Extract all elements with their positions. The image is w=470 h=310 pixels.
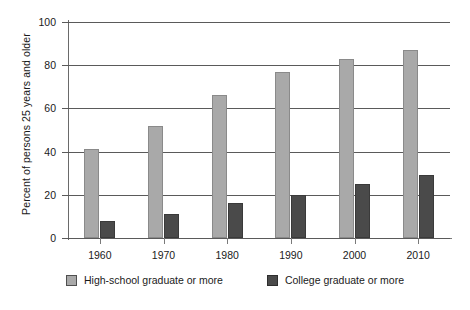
legend-label-high-school: High-school graduate or more [84,274,223,286]
gridline [68,238,450,239]
x-tick-label-2000: 2000 [325,249,385,261]
legend-label-college: College graduate or more [285,274,404,286]
x-tick-mark [291,238,292,244]
y-tick-label: 80 [18,60,56,70]
x-tick-label-1990: 1990 [261,249,321,261]
legend-item-college: College graduate or more [267,274,404,286]
x-tick-mark [227,238,228,244]
chart-legend: High-school graduate or more College gra… [0,274,470,286]
bar-college-1970 [164,214,179,238]
x-tick-mark [164,238,165,244]
x-tick-label-1970: 1970 [134,249,194,261]
legend-item-high-school: High-school graduate or more [66,274,223,286]
y-tick-label: 0 [18,233,56,243]
bar-high-school-1960 [84,149,99,238]
gridline [68,152,450,153]
y-tick-label: 40 [18,147,56,157]
bar-high-school-2010 [403,50,418,238]
gridline [68,108,450,109]
gridline [68,65,450,66]
bar-high-school-1970 [148,126,163,238]
light-gray-swatch-icon [66,275,77,286]
bar-college-1980 [228,203,243,238]
y-tick-label: 20 [18,190,56,200]
y-tick-label: 100 [18,17,56,27]
dark-gray-swatch-icon [267,275,278,286]
x-tick-label-2010: 2010 [388,249,448,261]
bar-college-2000 [355,184,370,238]
bar-chart: Percent of persons 25 years and older 02… [0,0,470,310]
y-axis-title: Percent of persons 25 years and older [20,14,32,234]
bar-college-1960 [100,221,115,238]
plot-area [68,22,450,238]
x-tick-mark [355,238,356,244]
bar-college-2010 [419,175,434,238]
bar-high-school-2000 [339,59,354,238]
gridline [68,22,450,23]
x-tick-label-1980: 1980 [197,249,257,261]
x-tick-label-1960: 1960 [70,249,130,261]
x-tick-mark [100,238,101,244]
gridline [68,195,450,196]
x-tick-mark [418,238,419,244]
bar-high-school-1980 [212,95,227,238]
bar-college-1990 [291,195,306,238]
y-tick-label: 60 [18,103,56,113]
bar-high-school-1990 [275,72,290,238]
